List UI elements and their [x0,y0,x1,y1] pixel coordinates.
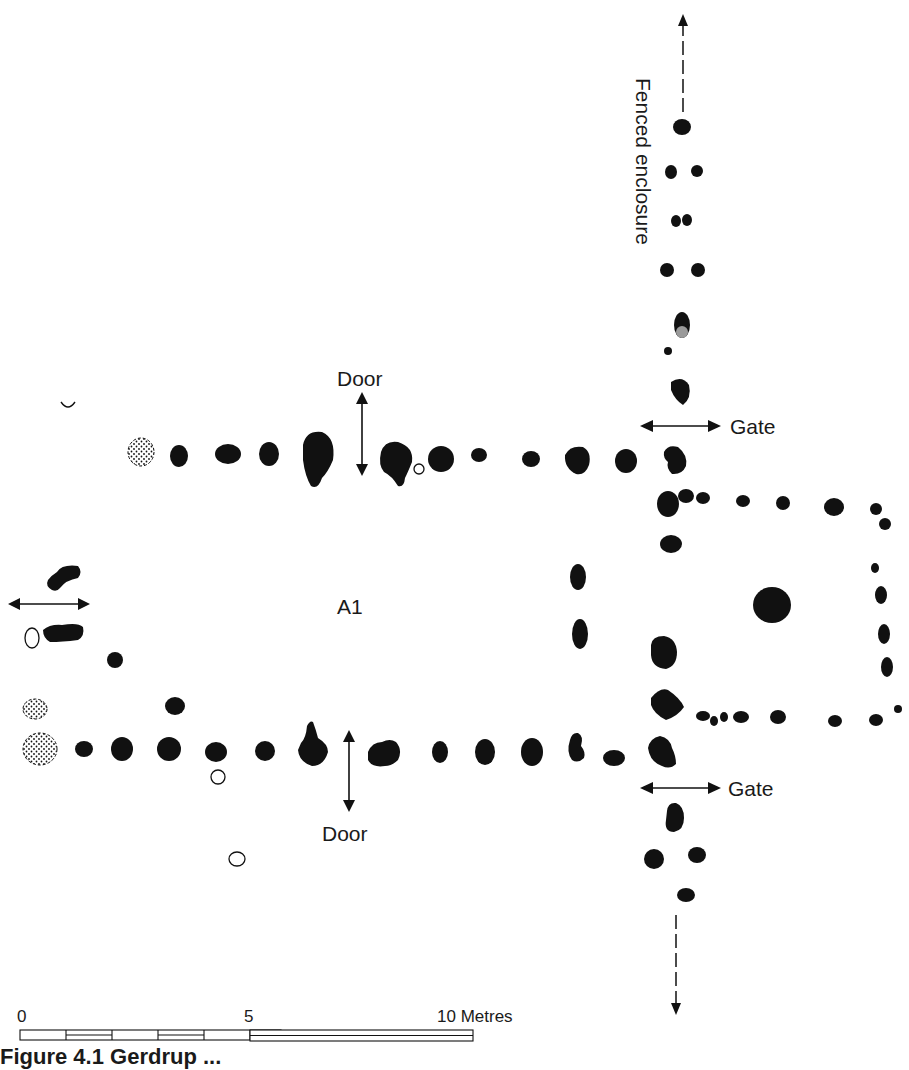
door-arrow-south-icon [343,730,355,812]
north-dashed-arrow-icon [678,14,688,112]
scale-tick-10: 10 Metres [437,1008,513,1025]
grey-posthole-fill [676,326,688,338]
stippled-posthole [23,699,47,719]
scale-tick-0: 0 [17,1008,26,1025]
west-end-postholes [43,566,185,715]
fenced-enclosure-label: Fenced enclosure [633,78,654,245]
fence-postholes-north [660,119,705,405]
stippled-posthole [23,733,57,765]
stippled-posthole [128,438,154,466]
empty-posthole [229,852,245,866]
door-arrow-west-icon [8,598,90,610]
gate-north-label: Gate [730,416,776,437]
figure-caption: Figure 4.1 Gerdrup ... [0,1044,221,1070]
north-wall-postholes [170,432,686,487]
gate-arrow-south-icon [640,782,721,794]
scale-tick-5: 5 [244,1008,253,1025]
gate-south-label: Gate [728,778,774,799]
empty-posthole [25,628,39,648]
south-wall-postholes [75,722,706,903]
door-arrow-north-icon [356,392,368,476]
annex-postholes [570,489,902,727]
gate-arrow-north-icon [640,420,721,432]
door-north-label: Door [337,368,383,389]
empty-posthole [414,464,424,474]
empty-posthole-partial [61,402,75,407]
scale-bar [20,1030,473,1041]
building-a1-label: A1 [337,596,363,617]
south-dashed-arrow-icon [671,915,681,1015]
empty-posthole [211,770,225,784]
door-south-label: Door [322,823,368,844]
